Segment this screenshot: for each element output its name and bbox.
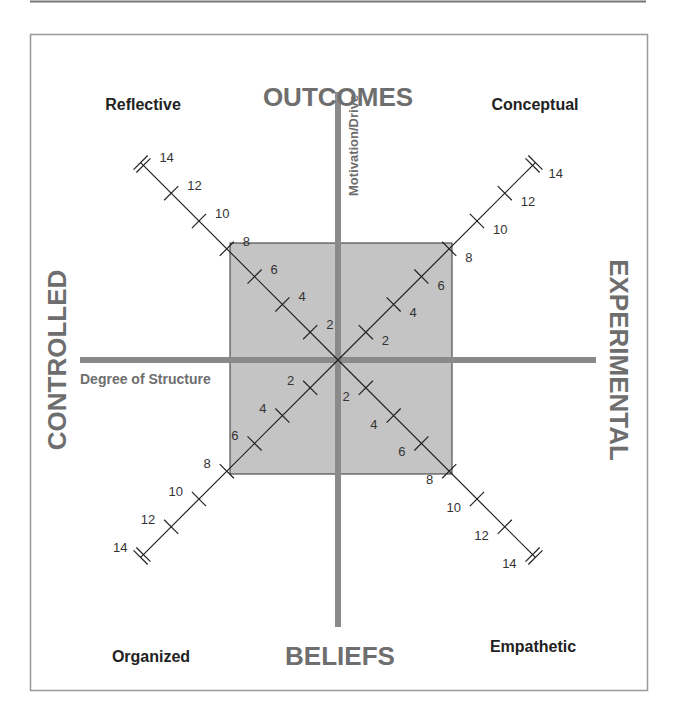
tick-label: 6 <box>398 444 405 459</box>
vertical-axis-label: Motivation/Drive <box>346 95 361 196</box>
tick-label: 10 <box>215 206 229 221</box>
tick-label: 12 <box>141 512 155 527</box>
title-top: OUTCOMES <box>263 82 413 112</box>
tick-label: 8 <box>465 250 472 265</box>
tick-label: 10 <box>447 500 461 515</box>
tick-label: 6 <box>271 262 278 277</box>
title-right: EXPERIMENTAL <box>604 259 634 461</box>
tick-label: 14 <box>113 540 127 555</box>
title-bottom: BELIEFS <box>285 641 395 671</box>
tick-label: 2 <box>287 373 294 388</box>
title-left: CONTROLLED <box>42 270 72 451</box>
tick-label: 10 <box>169 484 183 499</box>
corner-label-conceptual: Conceptual <box>491 96 578 113</box>
tick-label: 4 <box>298 289 305 304</box>
diagram-stage: 2468101214246810121424681012142468101214… <box>0 0 678 723</box>
tick-label: 12 <box>187 178 201 193</box>
tick-label: 4 <box>410 305 417 320</box>
tick-label: 14 <box>549 166 563 181</box>
tick-label: 14 <box>159 150 173 165</box>
corner-label-empathetic: Empathetic <box>490 638 576 655</box>
tick-label: 8 <box>204 456 211 471</box>
tick-label: 14 <box>502 556 516 571</box>
horizontal-axis-label: Degree of Structure <box>80 371 211 387</box>
tick-label: 6 <box>437 278 444 293</box>
tick-label: 2 <box>382 333 389 348</box>
tick-label: 4 <box>370 417 377 432</box>
tick-label: 4 <box>259 401 266 416</box>
tick-label: 10 <box>493 222 507 237</box>
quadrant-diagram: 2468101214246810121424681012142468101214… <box>0 0 678 723</box>
corner-label-reflective: Reflective <box>105 96 181 113</box>
tick-label: 8 <box>243 234 250 249</box>
corner-label-organized: Organized <box>112 648 190 665</box>
tick-label: 2 <box>326 317 333 332</box>
tick-label: 2 <box>343 389 350 404</box>
tick-label: 8 <box>426 472 433 487</box>
tick-label: 12 <box>474 528 488 543</box>
tick-label: 12 <box>521 194 535 209</box>
tick-label: 6 <box>231 428 238 443</box>
